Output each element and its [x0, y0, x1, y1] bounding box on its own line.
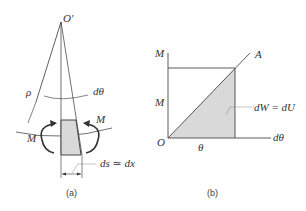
- panel-b: M M O dθ θ A dW = dU (b): [154, 47, 296, 198]
- y-axis-label: M: [154, 47, 165, 59]
- angle-label: dθ: [93, 85, 105, 97]
- moment-left-label: M: [26, 132, 37, 144]
- beam-element: [61, 120, 81, 155]
- ds-arrowhead-left: [62, 173, 66, 176]
- moment-arrowhead-left: [50, 120, 57, 127]
- moment-arrowhead-right: [83, 120, 90, 127]
- panel-a: O' ρ dθ M M ds ≃ dx (a): [16, 12, 135, 198]
- caption-b: (b): [207, 188, 218, 198]
- dtheta-arc: [44, 95, 88, 99]
- y-value-label: M: [154, 96, 165, 108]
- center-label: O': [63, 12, 74, 24]
- line-end-label: A: [254, 48, 262, 60]
- ds-leader-line: [72, 164, 96, 173]
- moment-arrow-right: [86, 124, 99, 153]
- moment-arrow-left: [41, 124, 54, 153]
- diagram-canvas: O' ρ dθ M M ds ≃ dx (a) M M O dθ θ A dW …: [0, 0, 306, 211]
- origin-label: O: [157, 136, 165, 148]
- ds-arrowhead-right: [77, 173, 81, 176]
- x-axis-label: dθ: [273, 131, 285, 143]
- area-label: dW = dU: [254, 101, 296, 113]
- x-value-label: θ: [198, 141, 204, 153]
- radius-line-left: [36, 22, 61, 102]
- arc-length-label: ds ≃ dx: [100, 157, 135, 169]
- moment-right-label: M: [95, 113, 106, 125]
- caption-a: (a): [66, 188, 77, 198]
- radius-label: ρ: [25, 86, 31, 98]
- rho-pointer: [28, 102, 36, 123]
